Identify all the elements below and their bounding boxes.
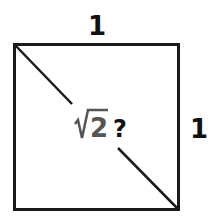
question-mark-text: ?	[113, 115, 127, 143]
diagonal-lower-segment	[118, 148, 177, 208]
unit-square-diagram: 1 1 2 ?	[0, 0, 211, 220]
radicand-text: 2	[90, 113, 108, 143]
diagonal-upper-segment	[15, 45, 72, 104]
top-side-label: 1	[88, 11, 106, 41]
diagonal-length-label: 2 ?	[75, 110, 127, 143]
right-side-label: 1	[190, 114, 208, 144]
